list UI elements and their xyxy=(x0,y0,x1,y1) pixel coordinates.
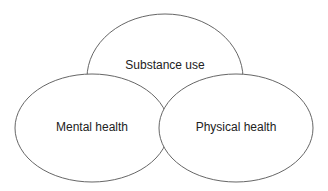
venn-diagram: Substance use Mental health Physical hea… xyxy=(0,0,328,191)
node-physical-health: Physical health xyxy=(159,74,313,182)
node-mental-health: Mental health xyxy=(15,74,169,182)
substance-use-label: Substance use xyxy=(125,58,205,72)
mental-health-label: Mental health xyxy=(56,120,128,134)
physical-health-label: Physical health xyxy=(196,120,277,134)
